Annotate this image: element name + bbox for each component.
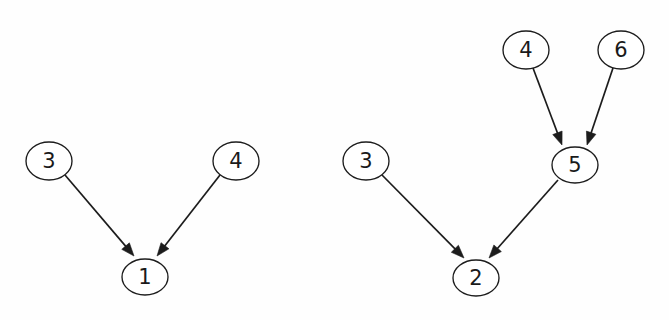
graph-node-3[interactable]: 3: [26, 142, 72, 180]
graph-node-6[interactable]: 6: [598, 31, 644, 69]
graph-node-1[interactable]: 1: [122, 259, 168, 295]
graph-node-5[interactable]: 5: [552, 147, 598, 183]
node-ellipse[interactable]: [453, 260, 499, 296]
node-ellipse[interactable]: [503, 31, 549, 69]
graph-node-4[interactable]: 4: [213, 142, 259, 180]
node-ellipse[interactable]: [26, 142, 72, 180]
node-ellipse[interactable]: [552, 147, 598, 183]
graph-node-4[interactable]: 4: [503, 31, 549, 69]
node-ellipse[interactable]: [213, 142, 259, 180]
graph-node-2[interactable]: 2: [453, 260, 499, 296]
node-ellipse[interactable]: [122, 259, 168, 295]
graph-node-3[interactable]: 3: [343, 142, 389, 180]
graph-figure-svg: 34146352: [0, 0, 669, 320]
node-ellipse[interactable]: [598, 31, 644, 69]
graph-figure-canvas: 34146352: [0, 0, 669, 320]
node-ellipse[interactable]: [343, 142, 389, 180]
